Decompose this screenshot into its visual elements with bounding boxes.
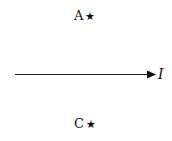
point-c: C★ — [74, 117, 96, 132]
star-icon: ★ — [86, 118, 96, 131]
current-label: I — [158, 66, 164, 82]
arrowhead-icon — [147, 71, 156, 79]
point-c-label: C — [74, 116, 84, 131]
